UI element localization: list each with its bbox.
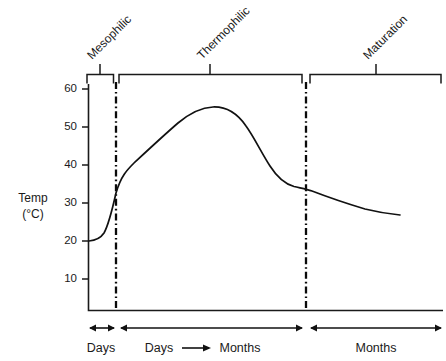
axes-group <box>89 84 444 311</box>
y-tick-label-10: 10 <box>64 272 77 284</box>
y-tick-label-50: 50 <box>64 120 77 132</box>
duration-arrows <box>89 325 442 332</box>
arrow-head-left-3 <box>310 325 317 332</box>
duration-label-thermophilic-to: Months <box>220 341 261 355</box>
y-axis-title-line1: Temp <box>18 191 48 205</box>
duration-label-mesophilic: Days <box>87 341 115 355</box>
arrow-head-right-3 <box>435 325 442 332</box>
duration-label-thermophilic-from: Days <box>145 341 173 355</box>
phase-labels: Mesophilic Thermophilic Maturation <box>84 4 410 62</box>
temperature-curve-group <box>89 107 400 241</box>
phase-dividers <box>116 82 306 311</box>
duration-arrow-mesophilic <box>89 325 115 332</box>
compost-temperature-chart: 60 50 40 30 20 10 Temp (°C) Mesophilic <box>0 0 446 361</box>
y-axis-title: Temp (°C) <box>18 191 48 221</box>
y-axis-title-line2: (°C) <box>22 207 43 221</box>
y-tick-label-30: 30 <box>64 196 77 208</box>
phase-label-thermophilic: Thermophilic <box>194 4 252 62</box>
phase-label-mesophilic: Mesophilic <box>84 12 134 62</box>
phase-brackets <box>87 64 441 84</box>
duration-arrow-thermophilic <box>120 325 303 332</box>
arrow-head-right-1 <box>108 325 115 332</box>
arrow-head-left-2 <box>120 325 127 332</box>
axis-lines <box>89 84 444 311</box>
duration-labels: Days Days Months Months <box>87 341 397 355</box>
chart-canvas: 60 50 40 30 20 10 Temp (°C) Mesophilic <box>0 0 446 361</box>
bracket-thermophilic <box>119 75 302 84</box>
arrow-head-right-2 <box>296 325 303 332</box>
y-tick-label-60: 60 <box>64 82 77 94</box>
duration-connector-arrow-icon <box>182 344 211 351</box>
arrow-head-left-1 <box>89 325 96 332</box>
y-axis-tick-labels: 60 50 40 30 20 10 <box>64 82 77 284</box>
duration-label-maturation: Months <box>356 341 397 355</box>
bracket-mesophilic <box>87 75 114 84</box>
y-tick-label-20: 20 <box>64 234 77 246</box>
phase-label-maturation: Maturation <box>360 12 410 62</box>
bracket-maturation <box>310 75 441 84</box>
temperature-curve <box>89 107 400 241</box>
duration-arrow-maturation <box>310 325 442 332</box>
y-tick-label-40: 40 <box>64 158 77 170</box>
